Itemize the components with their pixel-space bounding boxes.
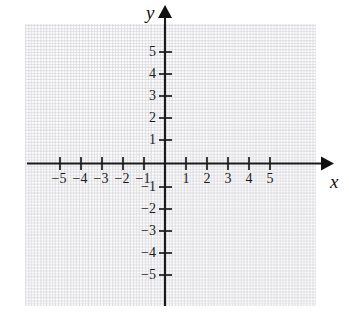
coordinate-plane-figure: −5 −4 −3 −2 −1 1 2 3 4 5 5 4 3 2 1 −1 −2… <box>0 0 349 320</box>
x-tick-label-5: 5 <box>267 172 274 186</box>
x-tick-label-3: 3 <box>225 172 232 186</box>
y-axis-label: y <box>146 3 154 22</box>
y-tick-label--5: −5 <box>141 268 156 282</box>
y-tick-label--3: −3 <box>141 224 156 238</box>
x-axis-label: x <box>330 172 338 191</box>
x-tick-label--2: −2 <box>115 172 130 186</box>
x-tick-label--3: −3 <box>94 172 109 186</box>
x-tick-label--5: −5 <box>52 172 67 186</box>
y-tick-label-5: 5 <box>149 45 156 59</box>
y-tick-label--4: −4 <box>141 246 156 260</box>
y-tick-label-2: 2 <box>149 111 156 125</box>
x-tick-label--4: −4 <box>73 172 88 186</box>
x-tick-label-1: 1 <box>183 172 190 186</box>
y-axis-arrow-icon <box>158 5 172 18</box>
y-tick-label--2: −2 <box>141 202 156 216</box>
axes-drawing <box>0 0 349 320</box>
y-tick-label-4: 4 <box>149 67 156 81</box>
y-tick-label-3: 3 <box>149 89 156 103</box>
y-tick-label-1: 1 <box>149 133 156 147</box>
x-axis-arrow-icon <box>321 157 334 171</box>
y-tick-label--1: −1 <box>141 180 156 194</box>
x-tick-label-2: 2 <box>204 172 211 186</box>
x-tick-label-4: 4 <box>246 172 253 186</box>
